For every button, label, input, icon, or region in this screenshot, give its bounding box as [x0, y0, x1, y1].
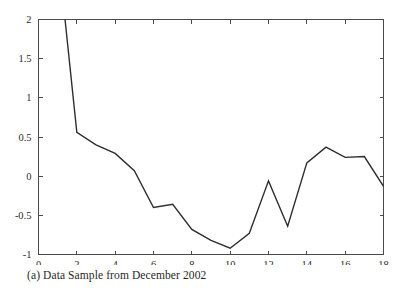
x-tick-label: 16	[340, 259, 351, 266]
chart-plot-area: -1-0.500.511.52 024681012141618	[0, 0, 409, 265]
axis-tick-marks	[39, 20, 384, 255]
x-axis-tick-labels: 024681012141618	[36, 259, 389, 266]
x-tick-label: 6	[151, 259, 156, 266]
x-tick-label: 8	[189, 259, 194, 266]
line-chart: -1-0.500.511.52 024681012141618	[0, 0, 409, 265]
y-axis-tick-labels: -1-0.500.511.52	[15, 14, 32, 260]
y-tick-label: 1	[26, 92, 31, 103]
x-tick-label: 14	[302, 259, 313, 266]
x-tick-label: 18	[378, 259, 389, 266]
y-tick-label: 1.5	[18, 53, 31, 64]
figure-container: -1-0.500.511.52 024681012141618 (a) Data…	[0, 0, 409, 299]
y-tick-label: 0	[26, 171, 31, 182]
x-tick-label: 10	[225, 259, 236, 266]
axis-frame	[39, 20, 384, 255]
figure-caption: (a) Data Sample from December 2002	[27, 268, 206, 282]
y-tick-label: 2	[26, 14, 31, 25]
x-tick-label: 12	[263, 259, 274, 266]
y-tick-label: 0.5	[18, 132, 31, 143]
x-tick-label: 2	[74, 259, 79, 266]
y-tick-label: -0.5	[15, 210, 32, 221]
x-tick-label: 4	[113, 259, 119, 266]
x-tick-label: 0	[36, 259, 41, 266]
y-tick-label: -1	[23, 249, 32, 260]
data-series-line	[58, 0, 384, 248]
